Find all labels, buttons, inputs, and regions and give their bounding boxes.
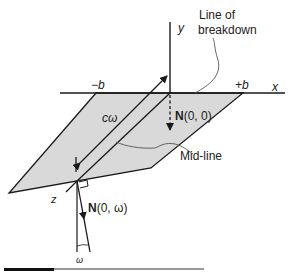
line-of-breakdown-label-1: Line of bbox=[199, 8, 236, 22]
normal-tip-arrow bbox=[77, 181, 84, 219]
angle-arc bbox=[77, 245, 88, 246]
bottom-rule-dark bbox=[4, 268, 54, 271]
plus-b-label: +b bbox=[235, 78, 249, 92]
mid-line-label: Mid-line bbox=[180, 149, 222, 163]
leader-line-of-breakdown bbox=[195, 38, 219, 93]
normal-origin-symbol: N bbox=[175, 109, 184, 123]
y-axis-label: y bbox=[177, 21, 185, 35]
minus-b-label: −b bbox=[91, 78, 105, 92]
normal-tip-line bbox=[84, 219, 90, 252]
x-axis-label: x bbox=[271, 80, 279, 94]
plate bbox=[9, 93, 243, 193]
normal-tip-args: (0, ω) bbox=[97, 201, 128, 215]
normal-origin-args: (0, 0) bbox=[184, 109, 212, 123]
normal-tip-symbol: N bbox=[88, 201, 97, 215]
length-label: cω bbox=[102, 111, 117, 125]
angle-label: ω bbox=[76, 255, 83, 265]
normal-origin-label: N(0, 0) bbox=[175, 109, 212, 123]
bottom-rule-light bbox=[54, 268, 204, 270]
normal-tip-label: N(0, ω) bbox=[88, 201, 127, 215]
z-axis-label: z bbox=[50, 193, 57, 205]
diagram-canvas: y x z −b +b Line of breakdown Mid-line c… bbox=[0, 0, 290, 272]
line-of-breakdown-label-2: breakdown bbox=[198, 23, 257, 37]
right-angle-marker bbox=[79, 180, 88, 188]
